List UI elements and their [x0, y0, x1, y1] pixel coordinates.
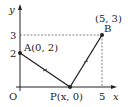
- origin-label: O: [9, 91, 17, 102]
- y-axis-label: y: [8, 4, 15, 15]
- point-P-label: P(x, 0): [50, 91, 83, 102]
- tick-mark-PB: [84, 61, 88, 62]
- point-P: [68, 85, 72, 89]
- x-axis-label: x: [113, 91, 119, 102]
- point-A-label: A(0, 2): [23, 42, 58, 53]
- tick-label-x5: 5: [99, 91, 105, 102]
- y-axis-arrow-icon: [18, 4, 22, 10]
- point-A: [18, 51, 22, 55]
- x-axis-arrow-icon: [111, 85, 117, 89]
- point-B-label: B: [104, 23, 111, 34]
- coordinate-diagram: y x O 3 2 5 A(0, 2) (5, 3) B P(x, 0): [0, 0, 128, 107]
- tick-label-y2: 2: [10, 48, 16, 59]
- tick-label-y3: 3: [10, 30, 16, 41]
